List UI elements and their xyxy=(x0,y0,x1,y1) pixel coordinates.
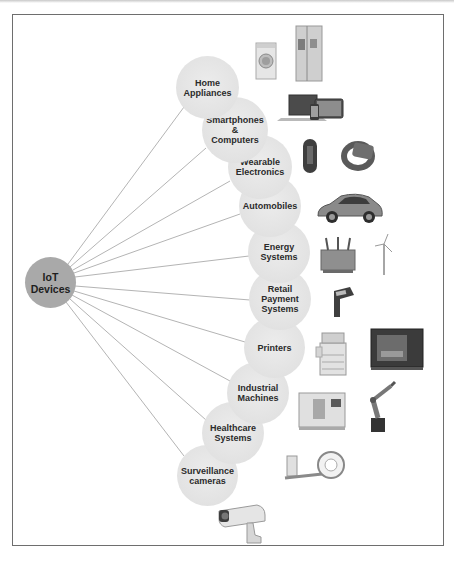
node-label: IoT xyxy=(31,271,71,283)
node-label: Appliances xyxy=(183,88,231,98)
node-label: & xyxy=(206,125,264,135)
node-label: Retail xyxy=(261,284,299,294)
cnc-machine-icon xyxy=(297,387,347,431)
node-label: Machines xyxy=(237,393,278,403)
node-label: Systems xyxy=(210,433,256,443)
smartwatch-icon xyxy=(339,138,377,173)
3d-printer-icon xyxy=(369,327,425,371)
node-label: Electronics xyxy=(236,167,285,177)
transformer-icon xyxy=(318,236,358,274)
node-label: Surveillance xyxy=(181,466,234,476)
washing-machine-icon xyxy=(255,42,277,80)
node-label: Systems xyxy=(261,304,299,314)
laptop-tablet-phone-icon xyxy=(275,93,345,123)
node-label: Devices xyxy=(31,283,71,295)
office-printer-icon xyxy=(314,329,350,377)
car-icon xyxy=(314,190,384,226)
node-label: cameras xyxy=(181,476,234,486)
node-label: Computers xyxy=(206,135,264,145)
node-label: Energy xyxy=(260,242,297,252)
security-camera-icon xyxy=(217,503,269,545)
node-iot-devices: IoT Devices xyxy=(25,257,76,308)
wind-turbine-icon xyxy=(372,232,396,276)
robot-arm-icon xyxy=(359,378,397,433)
node-home-appliances: HomeAppliances xyxy=(176,56,239,119)
node-label: Payment xyxy=(261,294,299,304)
ct-scanner-icon xyxy=(283,450,345,484)
node-label: Systems xyxy=(260,252,297,262)
node-label: Healthcare xyxy=(210,423,256,433)
card-payment-terminal-icon xyxy=(330,285,356,319)
node-label: Home xyxy=(183,78,231,88)
node-label: Industrial xyxy=(237,383,278,393)
node-label: Printers xyxy=(257,343,291,353)
node-label: Automobiles xyxy=(243,201,298,211)
fitness-band-icon xyxy=(300,138,320,174)
refrigerator-icon xyxy=(295,25,323,82)
